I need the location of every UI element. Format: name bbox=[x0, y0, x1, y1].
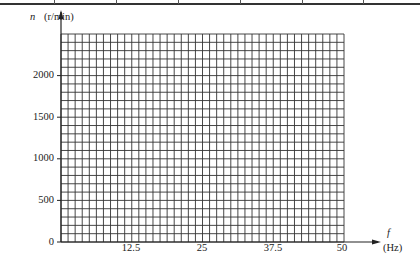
y-tick-1500: 1500 bbox=[14, 111, 54, 123]
y-tick-500: 500 bbox=[14, 194, 54, 206]
x-axis-arrow-icon bbox=[372, 240, 381, 245]
x-tick-12.5: 12.5 bbox=[111, 242, 151, 254]
x-tick-50: 50 bbox=[322, 242, 362, 254]
y-axis-name: n bbox=[30, 11, 35, 23]
grid-chart bbox=[0, 0, 420, 266]
origin-label: 0 bbox=[14, 236, 54, 248]
x-axis-name: f bbox=[387, 227, 390, 239]
y-tick-1000: 1000 bbox=[14, 152, 54, 164]
x-tick-25: 25 bbox=[182, 242, 222, 254]
y-tick-2000: 2000 bbox=[14, 69, 54, 81]
x-tick-37.5: 37.5 bbox=[253, 242, 293, 254]
y-axis-unit: (r/min) bbox=[44, 11, 74, 23]
x-axis-unit: (Hz) bbox=[383, 242, 402, 254]
